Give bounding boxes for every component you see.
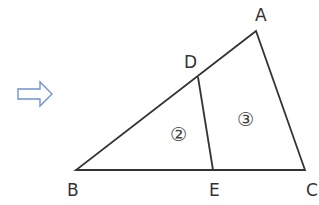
region-label-3: ③ xyxy=(237,108,254,130)
region-label-2: ② xyxy=(170,123,187,145)
triangle-diagram: A D B E C ② ③ xyxy=(0,0,319,205)
segment-de xyxy=(198,77,213,170)
right-arrow-icon xyxy=(18,82,52,106)
vertex-label-a: A xyxy=(255,5,267,25)
vertex-label-b: B xyxy=(67,180,79,200)
vertex-label-e: E xyxy=(209,180,220,200)
vertex-label-c: C xyxy=(306,180,318,200)
vertex-label-d: D xyxy=(184,52,197,72)
